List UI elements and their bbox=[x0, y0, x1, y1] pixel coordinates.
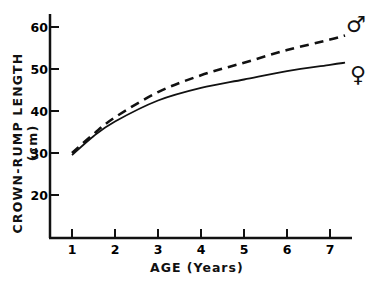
x-tick-label: 7 bbox=[326, 242, 335, 257]
y-axis-label: CROWN-RUMP LENGTH (cm) bbox=[10, 48, 40, 238]
x-tick-label: 1 bbox=[68, 242, 77, 257]
y-tick-label: 60 bbox=[31, 20, 49, 35]
x-ticks: 1234567 bbox=[68, 229, 335, 257]
male-symbol-icon: ♂ bbox=[346, 12, 366, 37]
female-curve bbox=[72, 63, 345, 155]
female-symbol-icon: ♀ bbox=[350, 62, 366, 87]
x-tick-label: 4 bbox=[197, 242, 206, 257]
x-tick-label: 2 bbox=[111, 242, 120, 257]
x-tick-label: 6 bbox=[283, 242, 292, 257]
chart-plot-area: 2030405060 1234567 bbox=[0, 0, 372, 283]
x-tick-label: 3 bbox=[154, 242, 163, 257]
male-curve bbox=[72, 35, 345, 153]
x-axis-label: AGE (Years) bbox=[150, 260, 244, 275]
x-tick-label: 5 bbox=[240, 242, 249, 257]
